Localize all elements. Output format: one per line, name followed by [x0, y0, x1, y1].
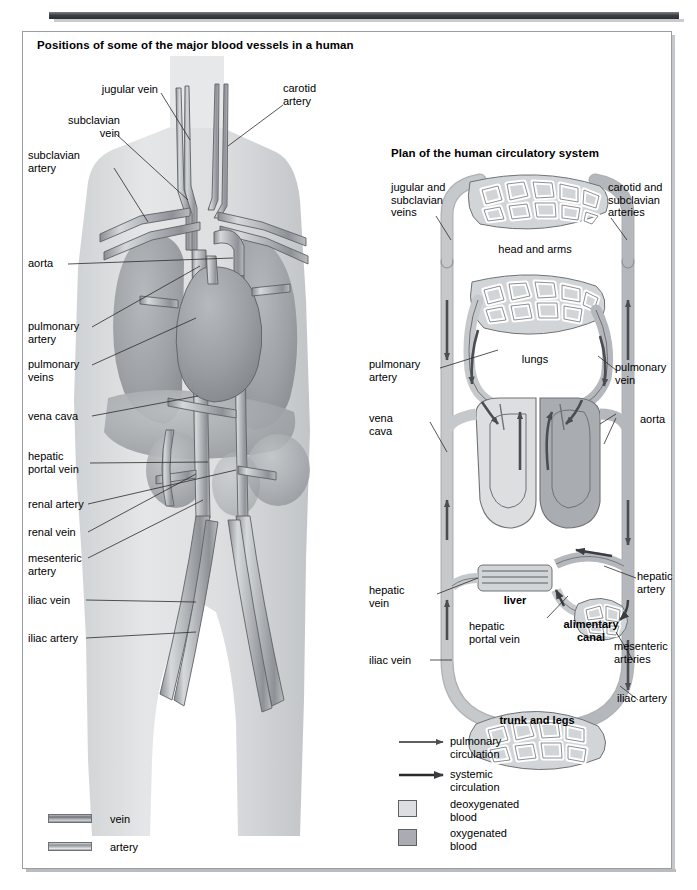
label-subclavian-artery: subclavian artery: [28, 149, 80, 174]
label-renal-artery: renal artery: [28, 498, 84, 511]
label-hepatic-artery: hepatic artery: [637, 570, 672, 595]
label-pulmonary-veins: pulmonary veins: [28, 358, 79, 383]
label-pulmonary-artery-plan: pulmonary artery: [369, 358, 420, 383]
label-pulmonary-artery: pulmonary artery: [28, 320, 79, 345]
legend-swatch-vein: [48, 814, 92, 823]
legend-swatch-artery: [48, 842, 92, 851]
label-hepatic-portal-vein-plan: hepatic portal vein: [469, 620, 520, 645]
label-hepatic-vein: hepatic vein: [369, 584, 404, 609]
right-panel-title: Plan of the human circulatory system: [391, 147, 599, 159]
legend-label-artery: artery: [110, 841, 138, 854]
organ-label-head-and-arms: head and arms: [480, 243, 590, 256]
left-panel-title: Positions of some of the major blood ves…: [37, 39, 354, 51]
organ-label-liver: liver: [490, 594, 540, 607]
label-iliac-vein: iliac vein: [28, 594, 70, 607]
organ-label-alimentary-canal: alimentary canal: [551, 618, 631, 643]
label-aorta-plan: aorta: [640, 413, 665, 426]
label-mesenteric-artery: mesenteric artery: [28, 552, 82, 577]
label-jugular-vein: jugular vein: [38, 83, 158, 96]
label-carotid-subclavian-arteries: carotid and subclavian arteries: [608, 181, 662, 219]
label-subclavian-vein: subclavian vein: [28, 114, 120, 139]
legend-label-vein: vein: [110, 813, 130, 826]
legend-label-oxygenated-blood: oxygenated blood: [450, 827, 507, 852]
label-vena-cava-plan: vena cava: [369, 412, 393, 437]
legend-swatch-deoxygenated-blood: [398, 800, 417, 817]
legend-label-pulmonary-circulation: pulmonary circulation: [450, 735, 501, 760]
figure-frame-shadow-right: [672, 35, 675, 872]
label-mesenteric-arteries: mesenteric arteries: [614, 640, 668, 665]
legend-label-systemic-circulation: systemic circulation: [450, 768, 500, 793]
label-pulmonary-vein-plan: pulmonary vein: [615, 361, 666, 386]
top-rule-shadow: [54, 19, 684, 22]
label-renal-vein: renal vein: [28, 526, 76, 539]
figure-frame-shadow-bottom: [26, 869, 676, 872]
label-iliac-artery-plan: iliac artery: [617, 692, 667, 705]
label-carotid-artery: carotid artery: [283, 82, 316, 107]
label-vena-cava: vena cava: [28, 410, 78, 423]
label-iliac-vein-plan: iliac vein: [369, 654, 411, 667]
label-aorta: aorta: [28, 257, 53, 270]
label-jugular-subclavian-veins: jugular and subclavian veins: [391, 181, 445, 219]
label-hepatic-portal-vein: hepatic portal vein: [28, 450, 79, 475]
legend-label-deoxygenated-blood: deoxygenated blood: [450, 798, 519, 823]
label-iliac-artery: iliac artery: [28, 632, 78, 645]
legend-swatch-oxygenated-blood: [398, 829, 417, 846]
organ-label-trunk-and-legs: trunk and legs: [477, 714, 597, 727]
top-rule: [49, 12, 679, 19]
organ-label-lungs: lungs: [500, 353, 570, 366]
